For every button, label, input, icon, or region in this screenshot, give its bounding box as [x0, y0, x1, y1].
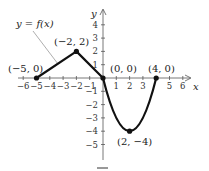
y-tick-label: −4	[85, 126, 98, 136]
point-neg5-0	[34, 75, 39, 80]
y-tick-label: −2	[85, 100, 98, 110]
y-tick-label: −1	[85, 86, 98, 96]
point-label-2-neg4: (2, −4)	[117, 136, 152, 147]
y-tick-label: 2	[93, 46, 98, 56]
x-tick-label: −5	[30, 81, 43, 91]
y-tick-label: 3	[93, 33, 98, 43]
y-axis-label: y	[90, 8, 97, 19]
x-tick-label: −3	[57, 81, 70, 91]
point-label-neg2-2: (−2, 2)	[54, 36, 89, 47]
x-tick-label: 6	[180, 81, 185, 91]
x-tick-label: −6	[17, 81, 30, 91]
y-tick-label: 1	[93, 60, 98, 70]
function-label: y = f(x)	[15, 18, 54, 29]
function-graph: −6 −5 −4 −3 −2 −1 1 2 3 5 6 4 3 2 1 −1 −…	[0, 0, 209, 171]
y-tick-label: −5	[85, 140, 98, 150]
x-tick-labels: −6 −5 −4 −3 −2 −1 1 2 3 5 6	[17, 81, 186, 91]
point-2-neg4	[127, 129, 132, 134]
point-0-0	[100, 75, 105, 80]
x-tick-label: 3	[140, 81, 145, 91]
x-axis-label: x	[193, 81, 199, 92]
point-neg2-2	[74, 49, 79, 54]
point-label-neg5-0: (−5, 0)	[8, 63, 43, 74]
y-tick-label: 4	[93, 20, 98, 30]
point-label-0-0: (0, 0)	[110, 63, 137, 74]
y-tick-label: −3	[85, 113, 98, 123]
point-label-4-0: (4, 0)	[148, 63, 175, 74]
x-tick-label: 2	[127, 81, 132, 91]
x-tick-label: 1	[114, 81, 119, 91]
x-tick-label: −4	[44, 81, 57, 91]
x-tick-label: −2	[70, 81, 83, 91]
x-tick-label: 5	[167, 81, 172, 91]
point-4-0	[154, 75, 159, 80]
